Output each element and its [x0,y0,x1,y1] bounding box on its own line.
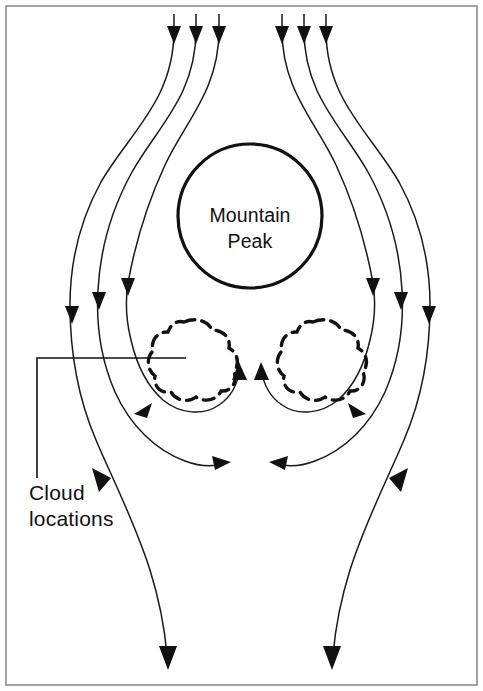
arrowhead-down-middle-right-mid [394,292,408,310]
arrowhead-down-inner-right-mid [366,278,380,296]
streamline-right-outer [319,14,436,670]
mountain-peak-label-line2: Peak [228,230,273,252]
arrowhead-left-eddy-left [134,403,152,418]
arrowhead-down-outer-left-low [92,468,111,492]
arrowhead-down-inner-left-mid [121,278,135,296]
arrowhead-down-outer-left-mid [65,306,79,324]
streamline-right-middle [269,14,408,470]
arrowhead-down-outer-left-top [167,26,181,44]
arrowhead-right-eddy-lower-left [212,456,231,470]
arrowhead-down-middle-left-top [189,26,203,44]
diagram-canvas: Mountain Peak Cloud locations [0,0,483,691]
arrowhead-down-middle-left-mid [92,292,106,310]
airflow-diagram-svg: Mountain Peak Cloud locations [0,0,483,691]
arrowhead-down-inner-left-top [212,26,226,44]
diagram-frame [6,6,477,685]
arrowhead-down-outer-left-exit [159,646,177,670]
arrowhead-down-inner-right-top [275,26,289,44]
cloud-left-shape [148,320,237,401]
mountain-peak-label-line1: Mountain [209,204,290,226]
cloud-right-shape [277,320,366,401]
arrowhead-left-eddy-lower-right [269,456,288,470]
arrowhead-up-center-right [254,362,269,380]
cloud-label-leader-line [37,358,186,478]
cloud-locations-label-line2: locations [29,507,114,530]
arrowhead-down-outer-right-low [389,468,408,492]
arrowhead-down-outer-right-exit [323,646,341,670]
arrowhead-down-outer-right-top [319,26,333,44]
arrowhead-down-middle-right-top [297,26,311,44]
arrowhead-down-outer-right-mid [422,306,436,324]
cloud-locations-label-line1: Cloud [29,481,85,504]
arrowhead-right-eddy-right [348,403,366,418]
streamline-left-outer [65,14,181,670]
